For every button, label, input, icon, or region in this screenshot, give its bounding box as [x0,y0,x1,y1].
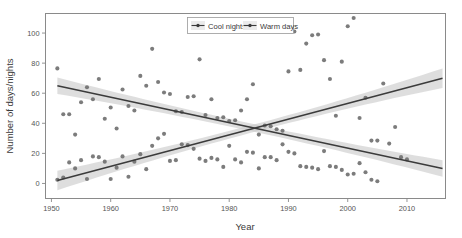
data-point [346,172,350,176]
data-point [310,33,314,37]
data-point [126,104,130,108]
data-point [340,60,344,64]
data-point [257,166,261,170]
chart-legend[interactable]: Cool nights Warm days [188,18,299,34]
x-tick-label: 2000 [339,204,355,213]
x-tick-label: 1970 [162,204,178,213]
y-tick-label: 60 [31,89,39,98]
data-point [358,116,362,120]
data-point [103,117,107,121]
data-point [245,97,249,101]
x-tick-label: 1990 [280,204,296,213]
x-tick-label: 1960 [102,204,118,213]
y-tick-label: 100 [27,29,39,38]
data-point [322,149,326,153]
data-point [209,97,213,101]
data-point [168,159,172,163]
data-point [156,136,160,140]
data-point [316,33,320,37]
data-point [162,90,166,94]
data-point [109,105,113,109]
data-point [79,100,83,104]
data-point [73,166,77,170]
data-point [245,150,249,154]
data-point [298,68,302,72]
y-tick-label: 0 [35,179,39,188]
data-point [334,114,338,118]
data-point [221,165,225,169]
data-point [91,154,95,158]
data-point [239,160,243,164]
data-point [286,150,290,154]
data-point [310,166,314,170]
x-tick-label: 1950 [43,204,59,213]
data-point [180,142,184,146]
data-point [198,57,202,61]
data-point [209,156,213,160]
data-point [292,151,296,155]
data-point [375,139,379,143]
data-point [103,160,107,164]
data-point [91,97,95,101]
data-point [115,127,119,131]
data-point [393,125,397,129]
data-point [192,147,196,151]
legend-marker-warm-days [248,24,251,27]
data-point [156,80,160,84]
data-point [352,172,356,176]
legend-entry-warm-days[interactable]: Warm days [243,21,298,31]
data-point [85,85,89,89]
data-point [286,69,290,73]
data-point [150,47,154,51]
legend-label-cool-nights: Cool nights [208,22,246,31]
data-point [316,167,320,171]
data-point [221,115,225,119]
data-point [132,108,136,112]
data-point [138,152,142,156]
data-point [174,158,178,162]
data-point [79,158,83,162]
data-point [257,133,261,137]
data-point [115,166,119,170]
x-axis-ticks: 1950196019701980199020002010 [43,199,415,213]
data-point [280,142,284,146]
data-point [192,94,196,98]
data-point [263,155,267,159]
data-point [198,157,202,161]
data-point [352,16,356,20]
legend-entry-cool-nights[interactable]: Cool nights [191,21,246,31]
data-point [97,77,101,81]
data-point [381,81,385,85]
x-axis-title: Year [235,221,254,232]
data-point [275,158,279,162]
data-point [67,112,71,116]
data-point [239,108,243,112]
data-point [304,165,308,169]
y-tick-label: 40 [31,119,39,128]
data-point [269,155,273,159]
data-point [120,154,124,158]
data-point [126,175,130,179]
data-point [251,82,255,86]
data-point [109,177,113,181]
y-tick-label: 20 [31,149,39,158]
data-point [251,151,255,155]
data-point [150,144,154,148]
data-point [138,74,142,78]
y-axis-ticks: 020406080100 [27,29,45,188]
data-point [363,170,367,174]
data-point [328,77,332,81]
data-point [233,157,237,161]
data-point [203,159,207,163]
legend-marker-cool-nights [196,24,199,27]
data-point [67,160,71,164]
scatter-plot-svg: 1950196019701980199020002010 02040608010… [0,0,462,238]
data-point [227,144,231,148]
data-point [280,129,284,133]
data-point [358,161,362,165]
data-point [97,155,101,159]
legend-label-warm-days: Warm days [260,22,298,31]
data-point [298,164,302,168]
data-point [369,139,373,143]
x-tick-label: 1980 [221,204,237,213]
